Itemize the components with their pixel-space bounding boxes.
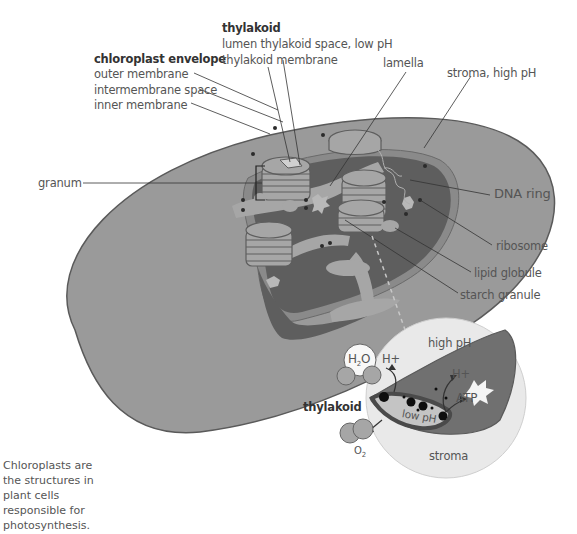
label-lamella: lamella (383, 55, 424, 71)
caption: Chloroplasts are the structures in plant… (3, 458, 113, 533)
inset-h-plus-in: H+ (382, 351, 400, 367)
label-inner-membrane: inner membrane (94, 97, 187, 113)
label-outer-membrane: outer membrane (94, 66, 188, 82)
label-lipid-globule: lipid globule (474, 265, 542, 281)
label-chloroplast-envelope: chloroplast envelope (94, 51, 226, 67)
label-dna-ring: DNA ring (494, 186, 551, 202)
label-lumen-thylakoid-space: lumen thylakoid space, low pH (222, 36, 392, 52)
label-ribosome: ribosome (496, 238, 548, 254)
label-starch-granule: starch granule (460, 287, 540, 303)
inset-h-plus-out: H+ (452, 366, 470, 382)
inset-atp: ATP (456, 390, 477, 406)
inset-h2o: H2O (348, 351, 370, 372)
label-stroma: stroma, high pH (447, 65, 536, 81)
inset-o2: O2 (354, 443, 366, 463)
inset-stroma: stroma (429, 448, 468, 464)
label-thylakoid-membrane: thylakoid membrane (222, 52, 338, 68)
label-intermembrane-space: intermembrane space (94, 82, 217, 98)
label-thylakoid-heading: thylakoid (222, 20, 281, 36)
label-granum: granum (38, 175, 82, 191)
inset-high-ph: high pH (428, 335, 471, 351)
inset-thylakoid-label: thylakoid (303, 399, 362, 415)
